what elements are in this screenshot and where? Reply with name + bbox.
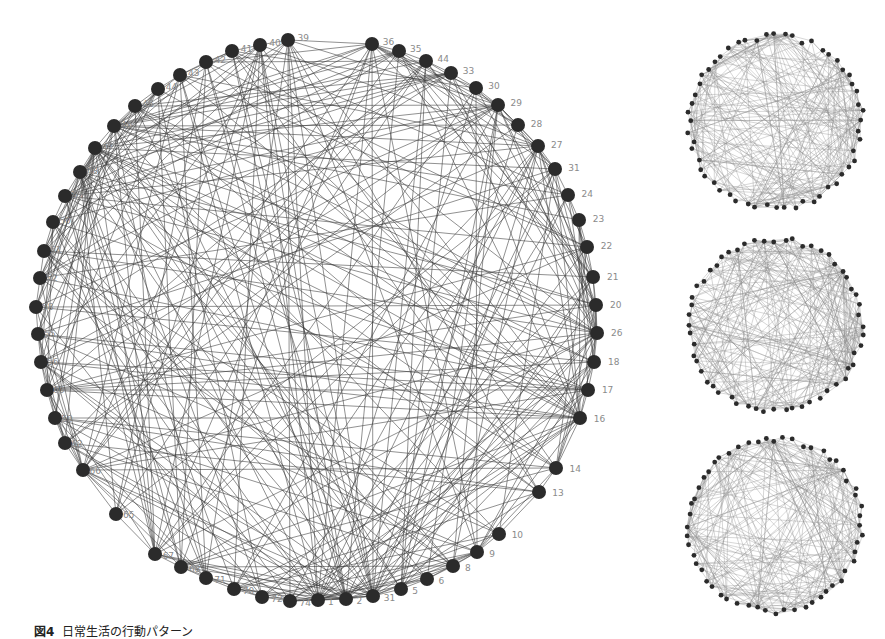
edge <box>44 251 427 579</box>
node-label: 65 <box>123 510 134 520</box>
graph-node <box>851 362 856 367</box>
node-dot <box>469 81 483 95</box>
edge <box>538 146 596 305</box>
edge <box>65 105 498 443</box>
node-label: 30 <box>488 81 500 91</box>
graph-node <box>687 312 692 317</box>
graph-node <box>712 180 717 185</box>
node-dot <box>572 213 586 227</box>
mini-network-graph-2 <box>675 225 875 425</box>
node-dot <box>33 271 47 285</box>
node-dot <box>392 44 406 58</box>
node-dot <box>37 244 51 258</box>
graph-node <box>832 262 837 267</box>
graph-node <box>826 185 831 190</box>
graph-node <box>843 568 848 573</box>
node-label: 8 <box>465 563 471 573</box>
graph-node <box>790 236 795 241</box>
graph-node <box>794 206 799 211</box>
graph-node <box>859 504 864 509</box>
mini-network-graph-1 <box>675 22 875 222</box>
edge <box>288 40 477 552</box>
graph-node: 31 <box>548 162 580 176</box>
edge <box>811 448 862 506</box>
graph-node <box>694 283 699 288</box>
graph-node <box>726 46 731 51</box>
node-label: 43 <box>188 68 199 78</box>
graph-node <box>699 72 704 77</box>
graph-node <box>804 605 809 610</box>
edge <box>765 610 794 611</box>
graph-node <box>692 140 697 145</box>
graph-node <box>807 400 812 405</box>
node-dot <box>148 547 162 561</box>
graph-node <box>692 497 697 502</box>
node-dot <box>580 240 594 254</box>
node-label: 67 <box>163 551 174 561</box>
graph-node <box>702 279 707 284</box>
node-dot <box>394 582 408 596</box>
graph-node: 62 <box>58 436 83 450</box>
graph-node <box>688 331 693 336</box>
node-label: 14 <box>569 464 581 474</box>
graph-node: 14 <box>549 461 581 475</box>
graph-node <box>857 302 862 307</box>
node-dot <box>225 44 239 58</box>
graph-node <box>850 82 855 87</box>
node-label: 72 <box>271 594 282 604</box>
node-dot <box>76 463 90 477</box>
graph-node <box>799 41 804 46</box>
graph-node <box>764 32 769 37</box>
node-dot <box>491 98 505 112</box>
graph-node <box>686 110 691 115</box>
graph-node <box>853 493 858 498</box>
graph-node <box>819 248 824 253</box>
graph-node <box>834 458 839 463</box>
graph-node <box>790 436 795 441</box>
graph-node <box>817 194 822 199</box>
node-label: 39 <box>298 33 310 43</box>
node-dot <box>339 592 353 606</box>
graph-node <box>844 479 849 484</box>
edge <box>792 315 858 408</box>
edge <box>786 34 812 41</box>
graph-node <box>752 238 757 243</box>
graph-node <box>856 129 861 134</box>
graph-node <box>719 255 724 260</box>
graph-node: 18 <box>587 355 620 369</box>
graph-node <box>686 542 691 547</box>
graph-node <box>860 533 865 538</box>
graph-node <box>688 512 693 517</box>
graph-node: 24 <box>561 188 593 202</box>
node-label: 16 <box>594 414 606 424</box>
node-label: 20 <box>610 300 622 310</box>
graph-node <box>854 89 859 94</box>
graph-node <box>861 108 866 113</box>
graph-node <box>698 81 703 86</box>
node-dot <box>199 55 213 69</box>
graph-node <box>809 445 814 450</box>
graph-node <box>849 287 854 292</box>
graph-node <box>852 159 857 164</box>
graph-node <box>706 469 711 474</box>
graph-node <box>694 561 699 566</box>
node-label: 59 <box>61 414 73 424</box>
graph-node <box>857 513 862 518</box>
graph-node <box>782 607 787 612</box>
graph-node: 60 <box>40 383 65 397</box>
graph-node <box>762 239 767 244</box>
graph-node <box>856 313 861 318</box>
graph-node <box>821 448 826 453</box>
graph-node <box>800 199 805 204</box>
graph-node <box>708 268 713 273</box>
graph-node: 23 <box>572 213 604 227</box>
edge <box>36 305 596 307</box>
node-dot <box>199 571 213 585</box>
node-label: 42 <box>214 55 225 65</box>
node-dot <box>419 54 433 68</box>
node-label: 26 <box>611 328 623 338</box>
node-label: 13 <box>552 488 563 498</box>
node-dot <box>549 461 563 475</box>
graph-node <box>690 295 695 300</box>
node-label: 29 <box>510 98 522 108</box>
